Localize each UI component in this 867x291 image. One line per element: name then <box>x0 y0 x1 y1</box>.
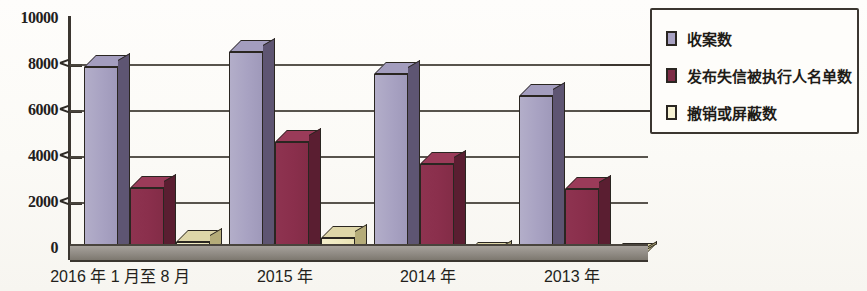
bar-group-2016 <box>80 18 215 258</box>
bar-2014-shouansu <box>374 74 408 258</box>
legend-item-shouansu[interactable]: 收案数 <box>666 28 732 49</box>
chart-floor-slab <box>70 244 648 262</box>
bar-side-face <box>164 174 176 251</box>
legend-item-shixin[interactable]: 发布失信被执行人名单数 <box>666 65 852 86</box>
bar-side-face <box>263 38 275 251</box>
bar-front-face <box>229 52 263 258</box>
legend-label-chexiao: 撤销或屏蔽数 <box>687 102 777 123</box>
bar-front-face <box>519 96 553 258</box>
legend-leader-line-1 <box>600 64 650 66</box>
y-axis-label-4000: 4000 <box>0 147 58 165</box>
bar-2015-shouansu <box>229 52 263 258</box>
y-axis-label-10000: 10000 <box>0 9 58 27</box>
bar-front-face <box>84 67 118 258</box>
bar-group-2015 <box>225 18 360 258</box>
bar-2013-shouansu <box>519 96 553 258</box>
plot-area <box>70 18 648 258</box>
bar-side-face <box>408 60 420 251</box>
bar-side-face <box>599 175 611 251</box>
legend-swatch-purple-icon <box>666 31 677 46</box>
bar-group-2014 <box>370 18 505 258</box>
bar-side-face <box>118 53 130 251</box>
bar-2016-shouansu <box>84 67 118 258</box>
x-axis-label-2016: 2016 年 1 月至 8 月 <box>20 263 220 287</box>
legend-item-chexiao[interactable]: 撤销或屏蔽数 <box>666 102 777 123</box>
y-axis-label-6000: 6000 <box>0 101 58 119</box>
legend-swatch-darkred-icon <box>666 68 677 83</box>
bar-side-face <box>309 128 321 251</box>
bar-front-face <box>374 74 408 258</box>
x-axis-label-2013: 2013 年 <box>492 263 652 287</box>
y-axis-label-8000: 8000 <box>0 55 58 73</box>
x-axis-label-2015: 2015 年 <box>205 263 365 287</box>
chart-legend: 收案数 发布失信被执行人名单数 撤销或屏蔽数 <box>650 8 859 134</box>
bar-side-face <box>553 82 565 251</box>
legend-swatch-cream-icon <box>666 105 677 120</box>
bar-side-face <box>454 150 466 251</box>
bar-front-face <box>275 142 309 258</box>
y-axis-label-2000: 2000 <box>0 193 58 211</box>
bar-chart-figure: 10000 8000 6000 4000 2000 0 <box>0 0 867 291</box>
legend-leader-line-2 <box>600 110 650 112</box>
legend-label-shixin: 发布失信被执行人名单数 <box>687 65 852 86</box>
x-axis-label-2014: 2014 年 <box>348 263 508 287</box>
bar-group-2013 <box>515 18 650 258</box>
bar-2015-shixin <box>275 142 309 258</box>
y-axis-label-0: 0 <box>0 239 58 257</box>
legend-label-shouansu: 收案数 <box>687 28 732 49</box>
